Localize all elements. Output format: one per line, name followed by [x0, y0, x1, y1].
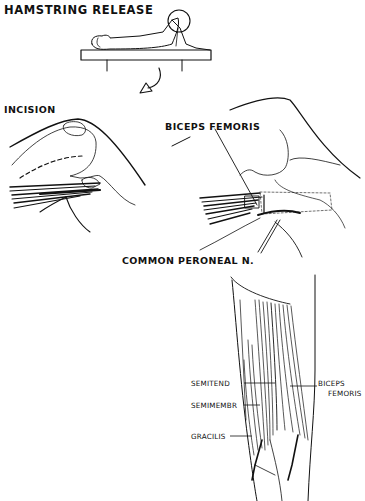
femoris-label: FEMORIS [328, 389, 362, 398]
gracilis-label: GRACILIS [191, 432, 226, 441]
incision-panel [10, 119, 145, 232]
posterior-thigh-panel [230, 275, 317, 501]
semimembr-label: SEMIMEMBR [191, 401, 237, 410]
retractor [261, 220, 280, 253]
lateral-thigh-outline [308, 275, 315, 501]
biceps-label: BICEPS [318, 379, 345, 388]
calf-outline [275, 222, 302, 257]
patient-body [92, 18, 179, 49]
biceps-femoris-tendon [200, 192, 332, 224]
figure-title: HAMSTRING RELEASE [4, 3, 153, 17]
patient-head [97, 38, 100, 47]
patella [63, 122, 85, 136]
patient-leg [172, 20, 210, 50]
operating-table [81, 50, 211, 60]
arrow-head-icon [140, 83, 152, 93]
skin-outline [10, 119, 145, 185]
semitend-label: SEMITEND [191, 379, 230, 388]
incision-edge [172, 137, 190, 146]
operating-table-scene [81, 10, 211, 93]
retractor [258, 220, 277, 252]
femoral-condyle [240, 130, 288, 175]
tibial-plateau [290, 158, 340, 165]
illustration [0, 0, 365, 501]
biceps-femoris-label: BICEPS FEMORIS [165, 121, 260, 132]
biceps-leader-line [215, 129, 257, 205]
incision-line [20, 156, 82, 178]
incision-label: INCISION [4, 104, 56, 115]
hamstring-muscles [240, 300, 308, 501]
tibia-outline [275, 180, 345, 228]
calf-lower-outline [200, 218, 260, 250]
curved-arrow-icon [148, 68, 160, 88]
common-peroneal-nerve-label: COMMON PERONEAL N. [122, 255, 254, 266]
skin-outline [230, 98, 360, 178]
nerve-line [66, 197, 90, 232]
